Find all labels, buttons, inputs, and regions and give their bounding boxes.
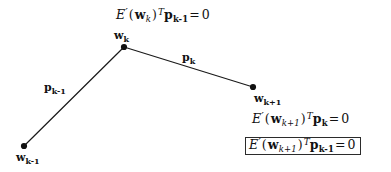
equation-right-upper-transpose: T [307,111,313,121]
node-label-w-k-minus-1: wk-1 [16,152,40,163]
node-label-w-k-plus-1: wk+1 [254,93,281,104]
node-dot-w-k-plus-1 [250,84,256,90]
equation-right-upper-arg-base: w [271,111,282,126]
segment-label-p-k-minus-1-base: p [44,81,52,94]
equation-right-upper-vec-sub: k [322,118,328,128]
equation-right-lower-func: E [249,137,258,152]
equation-right-lower-close-paren: ) [297,137,304,152]
equation-top-equals: = [188,7,201,22]
equation-right-upper-close-paren: ) [300,111,307,126]
node-label-w-k-minus-1-sub: k-1 [25,156,39,166]
equation-top-arg-base: w [135,7,146,22]
equation-right-lower-equals: = [334,137,347,152]
equation-top-rhs: 0 [201,7,211,22]
equation-right-upper-rhs: 0 [340,111,350,126]
node-dot-w-k [121,44,127,50]
segment-p-k-minus-1 [24,47,124,146]
node-dot-w-k-minus-1 [21,143,27,149]
equation-top-transpose: T [158,7,164,17]
node-label-w-k-sub: k [123,34,129,44]
node-label-w-k: wk [114,30,129,41]
equation-right-lower-open-paren: ( [261,137,268,152]
equation-top: E′(wk)Tpk-1=0 [116,9,211,22]
equation-right-upper-open-paren: ( [264,111,271,126]
equation-top-prime: ′ [125,6,128,19]
node-label-w-k-plus-1-sub: k+1 [263,97,281,107]
equation-top-arg-sub: k [146,14,151,24]
equation-top-vec-base: p [164,7,173,22]
segment-label-p-k-sub: k [190,56,196,66]
equation-right-lower-prime: ′ [258,136,261,149]
equation-right-lower-rhs: 0 [347,137,357,152]
segment-label-p-k-minus-1-sub: k-1 [52,86,66,96]
equation-top-func: E [116,7,125,22]
segment-label-p-k-base: p [182,51,190,64]
equation-right-lower-transpose: T [304,137,310,147]
equation-right-upper-func: E [252,111,261,126]
equation-right-lower-vec-sub: k-1 [319,144,334,154]
equation-right-lower-vec-base: p [310,137,319,152]
equation-right-upper-equals: = [328,111,341,126]
equation-right-lower-arg-base: w [268,137,279,152]
figure-canvas: E′(wk)Tpk-1=0 wk wk-1 wk+1 pk-1 pk E′(wk… [0,0,391,172]
equation-top-vec-sub: k-1 [173,14,188,24]
equation-right-upper-vec-base: p [313,111,322,126]
equation-right-lower-box: E′(wk+1)Tpk-1=0 [245,137,361,155]
equation-right-upper-prime: ′ [261,110,264,123]
equation-right-upper: E′(wk+1)Tpk=0 [252,113,350,126]
equation-right-lower-arg-sub: k+1 [279,144,297,154]
equation-top-open-paren: ( [128,7,135,22]
segment-label-p-k: pk [182,52,195,63]
equation-right-lower-container: E′(wk+1)Tpk-1=0 [245,136,361,155]
equation-right-upper-arg-sub: k+1 [282,118,300,128]
segment-label-p-k-minus-1: pk-1 [44,82,66,93]
equation-top-close-paren: ) [151,7,158,22]
